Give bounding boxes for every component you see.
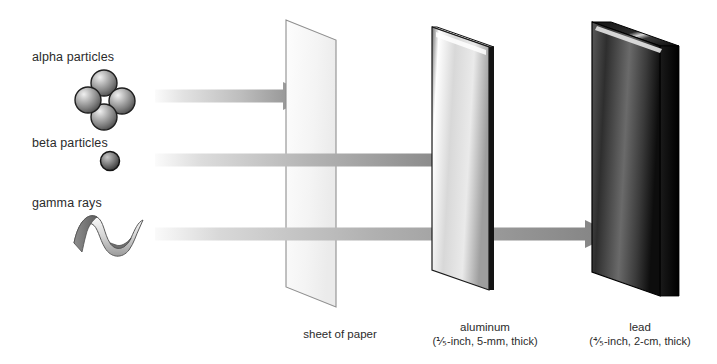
gamma-ray-symbol	[74, 216, 143, 256]
beta-label: beta particles	[32, 136, 108, 150]
aluminum-caption-detail: (⅕-inch, 5-mm, thick)	[420, 334, 550, 348]
alpha-label: alpha particles	[32, 50, 114, 64]
paper-caption: sheet of paper	[280, 327, 400, 341]
lead-barrier	[592, 22, 679, 296]
lead-caption-detail: (⅘-inch, 2-cm, thick)	[575, 334, 705, 348]
lead-caption-name: lead	[629, 321, 651, 333]
alpha-particle-symbol	[75, 70, 135, 130]
aluminum-barrier	[432, 27, 494, 290]
gamma-arrow	[155, 220, 614, 248]
beta-particle-symbol	[101, 152, 120, 171]
lead-caption: lead (⅘-inch, 2-cm, thick)	[575, 320, 705, 348]
gamma-label: gamma rays	[32, 196, 102, 210]
radiation-penetration-diagram: alpha particles beta particles gamma ray…	[0, 0, 717, 364]
paper-caption-name: sheet of paper	[303, 328, 377, 340]
aluminum-caption: aluminum (⅕-inch, 5-mm, thick)	[420, 320, 550, 348]
aluminum-caption-name: aluminum	[460, 321, 510, 333]
